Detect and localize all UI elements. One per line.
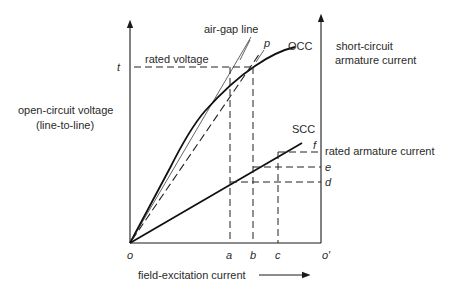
occ-label: OCC xyxy=(288,40,313,52)
point-a: a xyxy=(226,249,232,261)
point-b: b xyxy=(250,249,256,261)
point-c: c xyxy=(275,249,281,261)
left-axis-label-line2: (line-to-line) xyxy=(36,119,94,131)
point-o-prime: o′ xyxy=(322,249,331,261)
air-gap-line-label: air-gap line xyxy=(204,23,258,35)
right-axis-label-line2: armature current xyxy=(335,54,416,66)
air-gap-line xyxy=(130,37,251,243)
generator-characteristics-diagram: open-circuit voltage (line-to-line) shor… xyxy=(0,0,454,293)
occ-curve xyxy=(130,47,295,243)
x-axis-label: field-excitation current xyxy=(138,269,246,281)
point-p: p xyxy=(263,37,270,49)
origin-to-p-dashed-line xyxy=(132,53,260,240)
point-f: f xyxy=(313,139,317,151)
point-t: t xyxy=(117,61,121,73)
right-axis-label-line1: short-circuit xyxy=(336,40,393,52)
point-d: d xyxy=(325,176,332,188)
point-e: e xyxy=(325,161,331,173)
left-axis-label-line1: open-circuit voltage xyxy=(18,104,113,116)
rated-armature-current-label: rated armature current xyxy=(325,145,434,157)
air-gap-leader xyxy=(240,40,250,60)
rated-voltage-label: rated voltage xyxy=(145,53,209,65)
scc-label: SCC xyxy=(292,123,315,135)
point-o: o xyxy=(127,249,133,261)
